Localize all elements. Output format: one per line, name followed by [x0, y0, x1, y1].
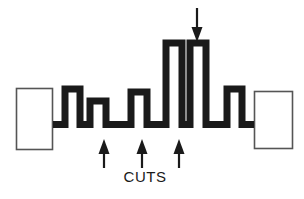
left-end-block	[17, 89, 53, 150]
arrow-up-cut-1-icon	[99, 139, 110, 168]
cuts-caption: CUTS	[0, 168, 290, 185]
profile-diagram: CUTS	[0, 0, 304, 199]
arrow-up-cut-3-icon	[174, 139, 185, 168]
arrow-up-cut-2-icon	[137, 139, 148, 168]
stepped-profile-outline	[53, 43, 254, 125]
arrow-down-top-icon	[192, 8, 203, 42]
right-end-block	[255, 92, 293, 149]
